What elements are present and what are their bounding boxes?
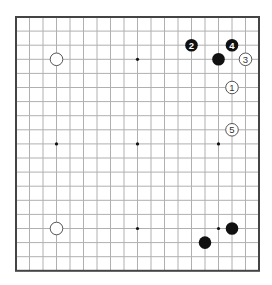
stone-circle — [50, 53, 63, 66]
star-point — [217, 142, 220, 145]
white-stone-move-1[interactable]: 1 — [226, 81, 239, 94]
black-stone[interactable] — [212, 53, 225, 66]
white-stone[interactable] — [50, 222, 63, 235]
stone-circle — [199, 236, 212, 249]
black-stone-move-2[interactable]: 2 — [185, 39, 198, 52]
stone-circle — [226, 222, 239, 235]
white-stone[interactable] — [50, 53, 63, 66]
star-point — [217, 227, 220, 230]
stone-circle — [50, 222, 63, 235]
star-point — [55, 142, 58, 145]
black-stone[interactable] — [226, 222, 239, 235]
move-number-label: 2 — [189, 40, 194, 51]
move-number-label: 1 — [229, 82, 234, 93]
black-stone-move-4[interactable]: 4 — [226, 39, 239, 52]
move-number-label: 4 — [229, 40, 235, 51]
star-point — [136, 142, 139, 145]
move-number-label: 3 — [243, 54, 248, 65]
white-stone-move-3[interactable]: 3 — [239, 53, 252, 66]
move-number-label: 5 — [229, 124, 234, 135]
black-stone[interactable] — [199, 236, 212, 249]
white-stone-move-5[interactable]: 5 — [226, 124, 239, 137]
star-point — [136, 58, 139, 61]
go-board[interactable]: 12345 — [0, 0, 272, 285]
stone-circle — [212, 53, 225, 66]
star-point — [136, 227, 139, 230]
